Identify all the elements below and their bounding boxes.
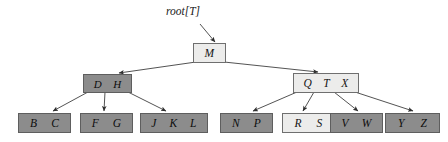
tree-edge-n-dh-to-leaf-jkl: [128, 92, 166, 111]
tree-key: M: [205, 47, 215, 59]
tree-edge-n-qtx-to-leaf-vw: [334, 92, 358, 111]
tree-edge-n-dh-to-leaf-bc: [53, 92, 88, 111]
tree-key: B: [30, 117, 37, 129]
tree-key: Y: [398, 117, 405, 129]
tree-edge-root-to-n-dh: [119, 62, 196, 73]
tree-edge-n-qtx-to-leaf-np: [253, 92, 297, 111]
tree-node-leaf-rs: RS: [282, 113, 335, 133]
edge-layer: [53, 24, 413, 111]
root-pointer-subscript: [T]: [185, 5, 200, 17]
tree-edge-n-qtx-to-leaf-rs: [303, 92, 314, 111]
tree-key: X: [341, 77, 348, 89]
tree-node-n-qtx: QTX: [293, 73, 359, 93]
btree-figure: MDHQTXBCFGJKLNPRSVWYZ root[T]: [0, 0, 448, 142]
tree-edge-n-dh-to-leaf-fg: [104, 92, 105, 111]
tree-node-leaf-jkl: JKL: [140, 113, 208, 133]
tree-key: D: [94, 78, 102, 90]
root-pointer-label: root[T]: [166, 5, 200, 17]
tree-key: H: [113, 78, 121, 90]
tree-key: K: [169, 117, 177, 129]
tree-key: Z: [420, 117, 427, 129]
tree-key: S: [317, 117, 323, 129]
tree-key: J: [151, 117, 156, 129]
tree-node-leaf-fg: FG: [80, 113, 133, 133]
tree-edge-root-to-n-qtx: [224, 62, 318, 72]
tree-node-leaf-bc: BC: [18, 113, 71, 133]
tree-key: P: [254, 117, 261, 129]
tree-key: G: [113, 117, 122, 129]
tree-key: N: [232, 117, 240, 129]
tree-node-n-dh: DH: [83, 74, 132, 93]
root-pointer-name: root: [166, 5, 185, 17]
tree-edge-root-pointer-to-root: [200, 24, 215, 42]
tree-node-leaf-np: NP: [220, 113, 273, 133]
tree-key: R: [294, 117, 301, 129]
tree-node-leaf-vw: VW: [330, 113, 383, 133]
tree-key: C: [51, 117, 59, 129]
tree-edge-n-qtx-to-leaf-yz: [355, 92, 413, 111]
tree-key: V: [341, 117, 348, 129]
tree-key: F: [92, 117, 99, 129]
tree-node-leaf-yz: YZ: [385, 113, 440, 133]
tree-key: L: [190, 117, 197, 129]
tree-key: T: [323, 77, 330, 89]
tree-node-root: M: [193, 43, 226, 63]
tree-key: Q: [304, 77, 313, 89]
tree-key: W: [362, 117, 372, 129]
